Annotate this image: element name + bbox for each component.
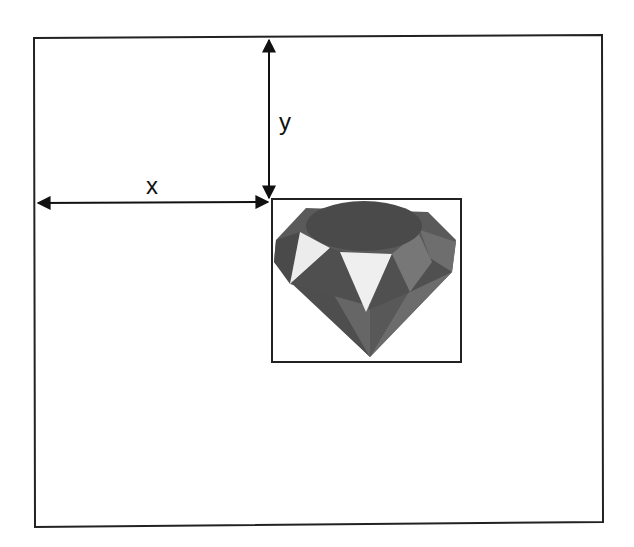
y-label: y — [279, 110, 291, 134]
ruby-gem-icon — [274, 201, 456, 357]
position-diagram — [0, 0, 634, 547]
x-label: x — [146, 174, 158, 198]
x-arrow — [38, 202, 268, 203]
